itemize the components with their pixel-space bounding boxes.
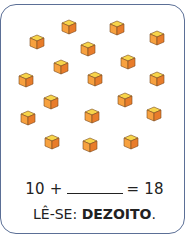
reading-line: LÊ-SE: DEZOITO. [0,206,189,222]
cube-icon [150,72,164,86]
cube-icon [85,109,99,123]
cube-icon [81,42,95,56]
equation: 10 += 18 [0,180,189,198]
cube-icon [45,135,59,149]
reading-word: DEZOITO [82,206,152,222]
cube-icon [124,135,138,149]
cube-icon [121,55,135,69]
cube-group [0,0,189,237]
cube-icon [83,138,97,152]
cube-icon [21,111,35,125]
cube-icon [19,73,33,87]
cube-icon [44,95,58,109]
cube-icon [54,60,68,74]
cube-icon [30,35,44,49]
equation-left: 10 + [25,180,62,198]
reading-suffix: . [152,206,156,222]
cube-icon [118,93,132,107]
cube-icon [110,21,124,35]
cube-icon [62,20,76,34]
cube-icon [150,31,164,45]
equation-right: = 18 [127,180,164,198]
cube-icon [147,107,161,121]
cube-icon [88,72,102,86]
reading-prefix: LÊ-SE: [33,206,77,222]
answer-blank[interactable] [67,181,123,194]
